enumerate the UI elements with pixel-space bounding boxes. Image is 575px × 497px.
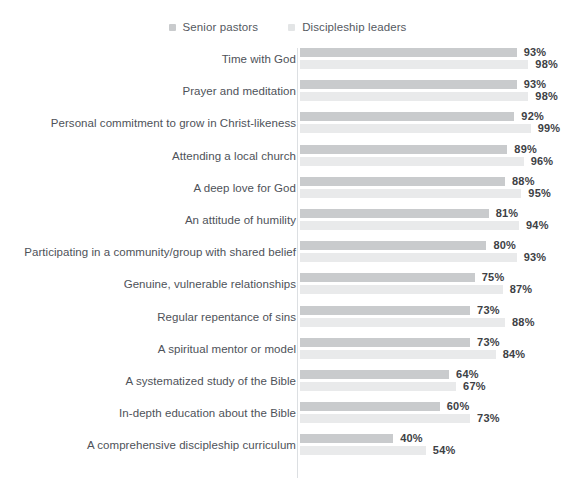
bar-value-label: 75% — [482, 271, 505, 283]
chart-row: A comprehensive discipleship curriculum4… — [0, 434, 575, 466]
bar-value-label: 88% — [512, 316, 535, 328]
category-label: Prayer and meditation — [0, 85, 296, 98]
category-label: A comprehensive discipleship curriculum — [0, 439, 296, 452]
bar-senior-pastors — [300, 273, 475, 282]
bar-chart-plot: Time with God93%98%Prayer and meditation… — [0, 48, 575, 480]
chart-row: Time with God93%98% — [0, 48, 575, 80]
chart-row: An attitude of humility81%94% — [0, 209, 575, 241]
bar-senior-pastors — [300, 80, 517, 89]
bar-value-label: 81% — [496, 207, 519, 219]
bar-value-label: 73% — [477, 336, 500, 348]
category-label: Time with God — [0, 53, 296, 66]
category-label: Participating in a community/group with … — [0, 246, 296, 259]
bar-discipleship-leaders — [300, 253, 517, 262]
bar-discipleship-leaders — [300, 414, 470, 423]
bar-value-label: 98% — [535, 90, 558, 102]
bar-value-label: 73% — [477, 412, 500, 424]
bar-value-label: 40% — [400, 432, 423, 444]
bar-value-label: 60% — [447, 400, 470, 412]
bar-discipleship-leaders — [300, 124, 531, 133]
chart-row: Regular repentance of sins73%88% — [0, 306, 575, 338]
bar-value-label: 93% — [524, 251, 547, 263]
bar-value-label: 99% — [538, 122, 561, 134]
category-label: Regular repentance of sins — [0, 311, 296, 324]
bar-value-label: 93% — [524, 78, 547, 90]
chart-row: Prayer and meditation93%98% — [0, 80, 575, 112]
bar-senior-pastors — [300, 306, 470, 315]
chart-row: A spiritual mentor or model73%84% — [0, 338, 575, 370]
bar-discipleship-leaders — [300, 446, 426, 455]
bar-senior-pastors — [300, 370, 449, 379]
bar-discipleship-leaders — [300, 189, 521, 198]
bar-value-label: 92% — [521, 110, 544, 122]
chart-row: A deep love for God88%95% — [0, 177, 575, 209]
chart-row: A systematized study of the Bible64%67% — [0, 370, 575, 402]
bar-senior-pastors — [300, 48, 517, 57]
legend-item-senior-pastors: Senior pastors — [169, 21, 259, 33]
legend-label: Discipleship leaders — [302, 21, 406, 33]
bar-discipleship-leaders — [300, 285, 503, 294]
bar-discipleship-leaders — [300, 382, 456, 391]
bar-senior-pastors — [300, 241, 486, 250]
bar-discipleship-leaders — [300, 157, 524, 166]
bar-value-label: 54% — [433, 444, 456, 456]
bar-senior-pastors — [300, 112, 514, 121]
chart-row: In-depth education about the Bible60%73% — [0, 402, 575, 434]
bar-senior-pastors — [300, 402, 440, 411]
bar-value-label: 98% — [535, 58, 558, 70]
chart-rows: Time with God93%98%Prayer and meditation… — [0, 48, 575, 466]
chart-row: Genuine, vulnerable relationships75%87% — [0, 273, 575, 305]
bar-discipleship-leaders — [300, 350, 496, 359]
chart-row: Personal commitment to grow in Christ-li… — [0, 112, 575, 144]
bar-senior-pastors — [300, 177, 505, 186]
bar-value-label: 94% — [526, 219, 549, 231]
category-label: A systematized study of the Bible — [0, 375, 296, 388]
category-label: Attending a local church — [0, 150, 296, 163]
category-label: In-depth education about the Bible — [0, 407, 296, 420]
bar-senior-pastors — [300, 209, 489, 218]
bar-discipleship-leaders — [300, 92, 528, 101]
bar-value-label: 80% — [493, 239, 516, 251]
legend-item-discipleship-leaders: Discipleship leaders — [288, 21, 406, 33]
legend-label: Senior pastors — [183, 21, 259, 33]
bar-value-label: 88% — [512, 175, 535, 187]
category-label: An attitude of humility — [0, 214, 296, 227]
category-label: Personal commitment to grow in Christ-li… — [0, 117, 296, 130]
bar-value-label: 93% — [524, 46, 547, 58]
bar-discipleship-leaders — [300, 318, 505, 327]
category-label: Genuine, vulnerable relationships — [0, 278, 296, 291]
bar-senior-pastors — [300, 145, 507, 154]
bar-value-label: 87% — [510, 283, 533, 295]
bar-senior-pastors — [300, 434, 393, 443]
bar-discipleship-leaders — [300, 221, 519, 230]
bar-value-label: 64% — [456, 368, 479, 380]
bar-value-label: 95% — [528, 187, 551, 199]
bar-discipleship-leaders — [300, 60, 528, 69]
chart-row: Attending a local church89%96% — [0, 145, 575, 177]
chart-legend: Senior pastors Discipleship leaders — [0, 21, 575, 33]
legend-swatch-icon — [169, 24, 176, 31]
bar-value-label: 73% — [477, 304, 500, 316]
bar-value-label: 89% — [514, 143, 537, 155]
chart-row: Participating in a community/group with … — [0, 241, 575, 273]
legend-swatch-icon — [288, 24, 295, 31]
bar-value-label: 67% — [463, 380, 486, 392]
bar-value-label: 84% — [503, 348, 526, 360]
category-label: A spiritual mentor or model — [0, 343, 296, 356]
bar-senior-pastors — [300, 338, 470, 347]
bar-value-label: 96% — [531, 155, 554, 167]
category-label: A deep love for God — [0, 182, 296, 195]
